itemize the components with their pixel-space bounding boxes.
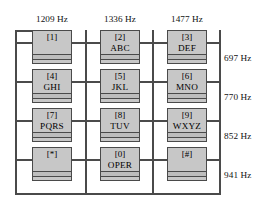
row-wire-1-segment-b (72, 42, 101, 44)
right-rail-row-2 (219, 81, 221, 120)
column-bus-rail-1 (85, 30, 87, 195)
column-frequency-label-2: 1336 Hz (90, 14, 150, 25)
row-frequency-label-2: 770 Hz (224, 92, 278, 103)
key-9-digit: [9] (182, 110, 193, 121)
key-8[interactable]: [8] TUV (100, 108, 140, 142)
column-frequency-label-1: 1209 Hz (22, 14, 82, 25)
key-hash[interactable]: [#] (167, 147, 207, 181)
key-star-digit: [*] (47, 149, 58, 160)
key-4-letters: GHI (44, 82, 61, 93)
row-wire-4-segment-a (15, 159, 33, 161)
right-rail-row-4 (219, 159, 221, 194)
key-5-letters: JKL (112, 82, 128, 93)
key-2-letters: ABC (110, 43, 130, 54)
key-0[interactable]: [0] OPER (100, 147, 140, 181)
dtmf-keypad-diagram: 1209 Hz 1336 Hz 1477 Hz 697 Hz 770 Hz 85… (0, 0, 278, 210)
key-star-slot (33, 171, 71, 177)
key-6-slot (168, 93, 206, 99)
row-wire-2-segment-c (140, 81, 168, 83)
row-wire-3-segment-a (15, 120, 33, 122)
key-2-slot (101, 54, 139, 60)
key-7-digit: [7] (47, 110, 58, 121)
row-wire-2-segment-b (72, 81, 101, 83)
key-2-digit: [2] (115, 32, 126, 43)
row-wire-1-segment-c (140, 42, 168, 44)
top-left-corner-wire (15, 30, 33, 32)
key-8-slot (101, 132, 139, 138)
key-9[interactable]: [9] WXYZ (167, 108, 207, 142)
key-0-digit: [0] (115, 149, 126, 160)
key-4[interactable]: [4] GHI (32, 69, 72, 103)
right-rail-row-1 (219, 42, 221, 81)
key-3-slot (168, 54, 206, 60)
key-8-digit: [8] (115, 110, 126, 121)
key-1[interactable]: [1] (32, 30, 72, 64)
key-6-letters: MNO (176, 82, 198, 93)
key-5-slot (101, 93, 139, 99)
key-8-letters: TUV (110, 121, 129, 132)
key-9-letters: WXYZ (173, 121, 201, 132)
key-7[interactable]: [7] PQRS (32, 108, 72, 142)
row-wire-3-segment-b (72, 120, 101, 122)
row-wire-4-segment-b (72, 159, 101, 161)
key-1-digit: [1] (47, 32, 58, 43)
key-9-slot (168, 132, 206, 138)
column-bus-rail-2 (152, 30, 154, 195)
key-6[interactable]: [6] MNO (167, 69, 207, 103)
key-star[interactable]: [*] (32, 147, 72, 181)
key-3[interactable]: [3] DEF (167, 30, 207, 64)
key-5-digit: [5] (115, 71, 126, 82)
bottom-rail (15, 193, 220, 195)
row-wire-3-segment-c (140, 120, 168, 122)
row-frequency-label-1: 697 Hz (224, 53, 278, 64)
row-wire-2-segment-a (15, 81, 33, 83)
key-0-letters: OPER (108, 160, 132, 171)
key-4-digit: [4] (47, 71, 58, 82)
key-5[interactable]: [5] JKL (100, 69, 140, 103)
row-wire-1-segment-a (15, 42, 33, 44)
key-3-letters: DEF (178, 43, 196, 54)
key-7-letters: PQRS (40, 121, 64, 132)
key-hash-digit: [#] (182, 149, 193, 160)
row-bus-rail-left (15, 30, 17, 195)
row-frequency-label-4: 941 Hz (224, 170, 278, 181)
key-4-slot (33, 93, 71, 99)
key-6-digit: [6] (182, 71, 193, 82)
key-0-slot (101, 171, 139, 177)
key-1-slot (33, 54, 71, 60)
key-3-digit: [3] (182, 32, 193, 43)
row-wire-4-segment-c (140, 159, 168, 161)
key-hash-slot (168, 171, 206, 177)
row-frequency-label-3: 852 Hz (224, 131, 278, 142)
right-rail-row-3 (219, 120, 221, 159)
column-frequency-label-3: 1477 Hz (157, 14, 217, 25)
key-2[interactable]: [2] ABC (100, 30, 140, 64)
key-7-slot (33, 132, 71, 138)
